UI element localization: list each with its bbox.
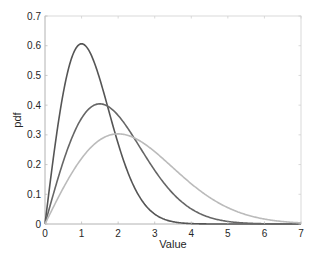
y-tick-label: 0.1: [27, 189, 41, 200]
x-tick-label: 5: [225, 228, 231, 239]
x-tick-label: 0: [42, 228, 48, 239]
x-axis-label: Value: [159, 238, 186, 250]
y-tick-label: 0: [35, 219, 41, 230]
x-tick-label: 1: [79, 228, 85, 239]
y-axis-label: pdf: [11, 111, 23, 127]
y-tick-label: 0.7: [27, 11, 41, 22]
x-tick-label: 6: [262, 228, 268, 239]
series-line-3: [45, 134, 301, 224]
y-tick-label: 0.5: [27, 70, 41, 81]
curves: [45, 44, 301, 224]
y-tick-label: 0.2: [27, 159, 41, 170]
series-line-2: [45, 104, 301, 224]
y-tick-label: 0.3: [27, 129, 41, 140]
tick-labels: 0123456700.10.20.30.40.50.60.7: [27, 11, 304, 240]
x-tick-label: 4: [189, 228, 195, 239]
x-tick-label: 2: [115, 228, 121, 239]
x-tick-label: 3: [152, 228, 158, 239]
series-line-1: [45, 44, 301, 224]
pdf-line-chart: 0123456700.10.20.30.40.50.60.7 Value pdf: [0, 0, 320, 259]
y-tick-label: 0.4: [27, 100, 41, 111]
x-tick-label: 7: [298, 228, 304, 239]
y-tick-label: 0.6: [27, 40, 41, 51]
